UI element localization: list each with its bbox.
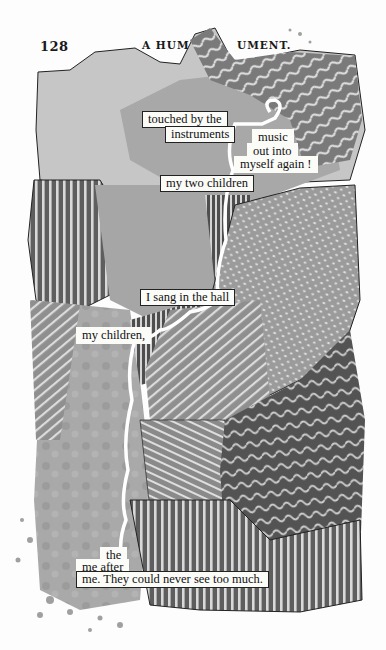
text-fragment: me. They could never see too much. — [76, 571, 269, 588]
text-fragment: my two children — [160, 175, 254, 192]
painted-collage — [0, 0, 386, 650]
text-fragment: I sang in the hall — [140, 289, 235, 306]
text-fragment: myself again ! — [234, 156, 318, 173]
running-title-left: A HUM — [142, 39, 190, 51]
text-fragment: instruments — [165, 126, 235, 143]
text-fragment: my children, — [76, 327, 151, 344]
artwork-page: 128 A HUM UMENT. touched by the instrume… — [0, 0, 386, 650]
running-title-right: UMENT. — [237, 39, 292, 51]
page-number: 128 — [40, 39, 69, 54]
